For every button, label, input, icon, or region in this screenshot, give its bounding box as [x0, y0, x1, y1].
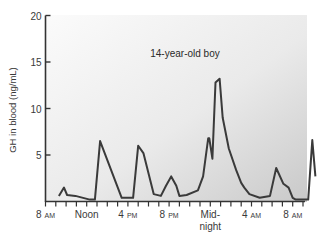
y-axis-label: GH in blood (ng/mL) [7, 67, 18, 153]
x-tick-label: Mid- [201, 209, 220, 220]
x-axis: 8AMNoon4PM8PMMid-night4AM8AM [36, 202, 305, 232]
chart-annotation: 14-year-old boy [150, 48, 219, 59]
y-tick-label: 10 [30, 104, 42, 115]
x-tick-label: Noon [75, 209, 99, 220]
y-tick-label: 20 [30, 11, 42, 22]
y-tick-label: 15 [30, 57, 42, 68]
y-tick-label: 5 [36, 150, 42, 161]
x-tick-label: 8AM [36, 209, 55, 220]
gh-secretion-chart: 14-year-old boy 5101520 8AMNoon4PM8PMMid… [0, 0, 321, 244]
plot-area [46, 15, 307, 202]
x-tick-label: 8PM [160, 209, 179, 220]
x-tick-label: 4PM [118, 209, 137, 220]
x-tick-label: 8AM [283, 209, 302, 220]
x-tick-label: 4AM [242, 209, 261, 220]
x-tick-label-line2: night [199, 221, 221, 232]
